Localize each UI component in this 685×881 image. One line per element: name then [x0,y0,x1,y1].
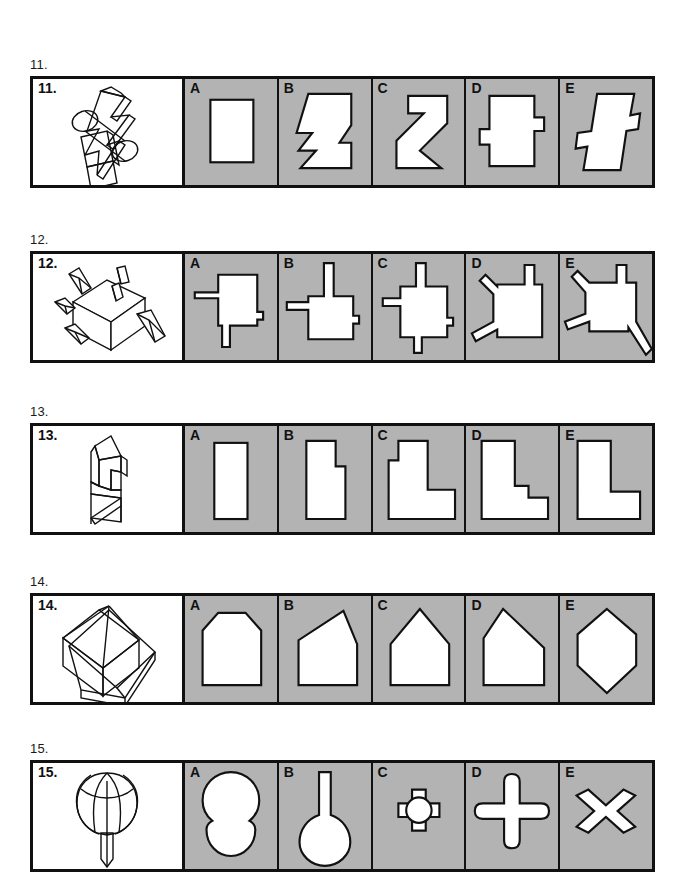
option-panel-11-A[interactable]: A [185,79,279,185]
question-block-14: 14. 14. [30,575,655,705]
option-panel-11-E[interactable]: E [560,79,652,185]
question-row-11: 11. [30,76,655,188]
option-label-14-E: E [565,598,574,613]
option-label-15-C: C [378,765,388,780]
question-block-11: 11. 11. [30,58,655,188]
question-outer-label-12: 12. [30,233,655,246]
option-label-13-A: A [190,428,200,443]
option-label-14-C: C [378,598,388,613]
question-row-12: 12. [30,251,655,363]
option-panel-13-D[interactable]: D [466,426,560,532]
option-label-15-D: D [471,765,481,780]
option-label-14-B: B [284,598,294,613]
option-panel-14-C[interactable]: C [373,596,467,702]
option-panel-15-E[interactable]: E [560,763,652,869]
option-panel-11-B[interactable]: B [279,79,373,185]
question-row-15: 15. A [30,760,655,872]
stem-label-15: 15. [38,765,57,780]
option-panel-12-C[interactable]: C [373,254,467,360]
option-label-12-E: E [565,256,574,271]
option-panel-11-D[interactable]: D [466,79,560,185]
option-panel-15-D[interactable]: D [466,763,560,869]
option-panel-12-A[interactable]: A [185,254,279,360]
stem-label-12: 12. [38,256,57,271]
question-outer-label-13: 13. [30,405,655,418]
stem-panel-14: 14. [33,596,185,702]
option-label-15-A: A [190,765,200,780]
option-panel-12-B[interactable]: B [279,254,373,360]
option-label-11-D: D [471,81,481,96]
question-block-13: 13. 13. [30,405,655,535]
question-row-14: 14. [30,593,655,705]
option-panel-14-D[interactable]: D [466,596,560,702]
option-label-14-A: A [190,598,200,613]
option-label-13-E: E [565,428,574,443]
option-panel-15-C[interactable]: C [373,763,467,869]
question-block-15: 15. 15. [30,742,655,872]
option-panel-15-A[interactable]: A [185,763,279,869]
option-label-11-E: E [565,81,574,96]
question-block-12: 12. 12. [30,233,655,363]
option-label-12-D: D [471,256,481,271]
option-panel-15-B[interactable]: B [279,763,373,869]
stem-label-13: 13. [38,428,57,443]
option-label-13-B: B [284,428,294,443]
option-panel-12-E[interactable]: E [560,254,652,360]
option-panel-14-A[interactable]: A [185,596,279,702]
option-label-14-D: D [471,598,481,613]
option-label-12-C: C [378,256,388,271]
option-panel-12-D[interactable]: D [466,254,560,360]
option-panel-13-C[interactable]: C [373,426,467,532]
stem-panel-15: 15. [33,763,185,869]
option-label-13-C: C [378,428,388,443]
option-panel-13-B[interactable]: B [279,426,373,532]
option-label-13-D: D [471,428,481,443]
stem-panel-11: 11. [33,79,185,185]
test-sheet: 11. 11. [0,0,685,881]
stem-panel-13: 13. [33,426,185,532]
option-panel-14-E[interactable]: E [560,596,652,702]
stem-label-14: 14. [38,598,57,613]
option-panel-11-C[interactable]: C [373,79,467,185]
stem-label-11: 11. [38,81,57,96]
option-label-12-A: A [190,256,200,271]
question-outer-label-11: 11. [30,58,655,71]
option-label-11-B: B [284,81,294,96]
option-panel-13-A[interactable]: A [185,426,279,532]
question-outer-label-14: 14. [30,575,655,588]
option-panel-13-E[interactable]: E [560,426,652,532]
question-outer-label-15: 15. [30,742,655,755]
question-row-13: 13. [30,423,655,535]
option-panel-14-B[interactable]: B [279,596,373,702]
option-label-15-B: B [284,765,294,780]
option-label-12-B: B [284,256,294,271]
option-label-11-A: A [190,81,200,96]
stem-panel-12: 12. [33,254,185,360]
option-label-15-E: E [565,765,574,780]
option-label-11-C: C [378,81,388,96]
